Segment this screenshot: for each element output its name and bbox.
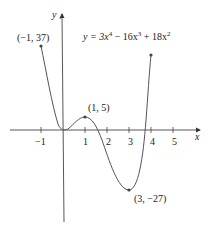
x-tick-label: 1	[83, 136, 88, 147]
x-tick-label: −1	[35, 136, 46, 147]
point-right-end	[149, 53, 152, 56]
point-1-5	[83, 115, 86, 118]
annotation-3-neg27: (3, −27)	[134, 193, 166, 205]
x-tick-label: 2	[106, 136, 111, 147]
equation-title: y = 3x4 − 16x3 + 18x2	[82, 30, 171, 42]
point-3-neg27	[127, 188, 130, 191]
x-tick-label: 5	[172, 136, 177, 147]
x-axis-label: x	[194, 131, 200, 142]
y-axis-label: y	[51, 9, 57, 20]
point-neg1-37	[39, 44, 42, 47]
x-tick-label: 4	[150, 136, 155, 147]
annotation-neg1-37: (−1, 37)	[17, 32, 49, 44]
x-tick-label: 3	[128, 136, 133, 147]
y-axis	[62, 14, 64, 222]
annotation-1-5: (1, 5)	[88, 102, 110, 114]
function-graph: −1 1 2 3 4 5 x y (−1, 37) (1, 5) (3, −27…	[0, 0, 215, 230]
curve	[41, 46, 151, 190]
